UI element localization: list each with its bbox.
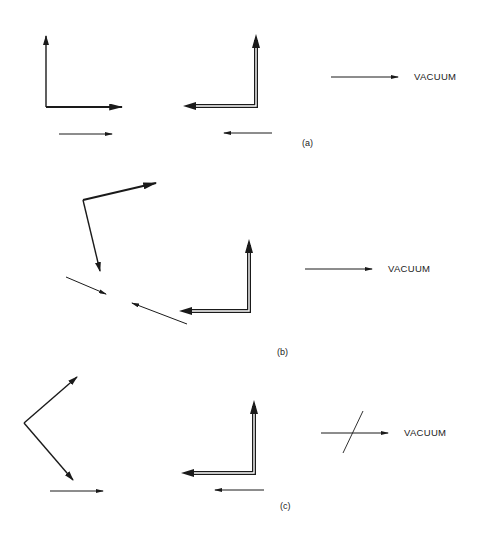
vector-rotated-lower-icon [24, 423, 73, 480]
propagation-arrow-tilted-back-icon [132, 303, 187, 324]
vector-rotated-upper-icon [83, 183, 156, 200]
propagation-arrow-tilted-icon [66, 277, 106, 294]
frame-right-c [181, 400, 258, 477]
vacuum-label-b: VACUUM [388, 264, 430, 274]
frame-left-b [83, 183, 156, 271]
panel-label-c: (c) [280, 502, 291, 511]
vector-rotated-lower-icon [83, 200, 100, 271]
frame-right-a [183, 34, 260, 110]
double-line-vector-icon [186, 245, 249, 311]
double-line-vector-icon [188, 406, 254, 473]
vector-rotated-upper-icon [24, 377, 77, 423]
panel-label-a: (a) [302, 139, 313, 148]
panel-b [66, 183, 372, 324]
panel-c [24, 377, 388, 491]
frame-left-c [24, 377, 77, 480]
frame-right-b [179, 239, 253, 315]
double-line-vector-icon [190, 40, 256, 106]
panel-label-b: (b) [277, 348, 288, 357]
frame-left-a [46, 36, 122, 107]
cross-slash-icon [343, 411, 363, 453]
panel-a [46, 34, 398, 134]
vacuum-label-a: VACUUM [414, 72, 456, 82]
vacuum-label-c: VACUUM [404, 428, 446, 438]
